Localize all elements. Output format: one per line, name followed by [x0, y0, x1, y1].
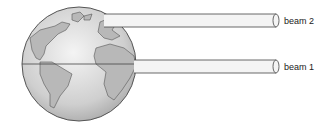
beam-2-label: beam 2	[284, 16, 314, 26]
beam-1	[134, 60, 279, 73]
beam-1-label: beam 1	[284, 62, 314, 72]
beam-2	[104, 14, 279, 27]
diagram-canvas	[0, 0, 331, 126]
